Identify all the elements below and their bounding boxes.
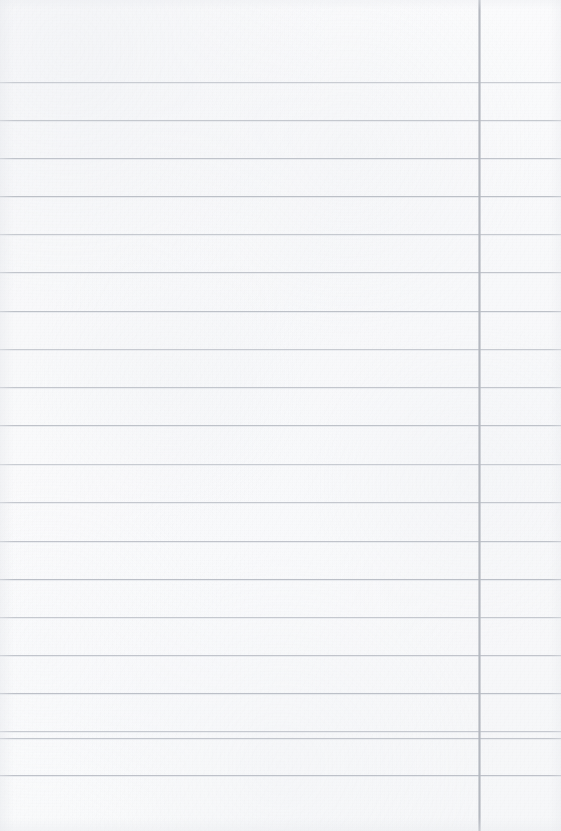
horizontal-rule xyxy=(0,617,561,618)
horizontal-rule xyxy=(0,579,561,580)
horizontal-rule xyxy=(0,464,561,465)
horizontal-rule xyxy=(0,693,561,694)
horizontal-rule xyxy=(0,731,561,732)
horizontal-rule xyxy=(0,311,561,312)
paper-grain-texture xyxy=(0,0,561,831)
horizontal-rule xyxy=(0,541,561,542)
horizontal-rule xyxy=(0,349,561,350)
horizontal-rule xyxy=(0,158,561,159)
horizontal-rule xyxy=(0,502,561,503)
horizontal-rule xyxy=(0,234,561,235)
horizontal-rule xyxy=(0,82,561,83)
horizontal-rule xyxy=(0,387,561,388)
paper-mottling xyxy=(0,0,561,831)
lined-paper-page xyxy=(0,0,561,831)
horizontal-rule xyxy=(0,120,561,121)
horizontal-rule xyxy=(0,655,561,656)
horizontal-rule xyxy=(0,738,561,739)
horizontal-rule xyxy=(0,775,561,776)
horizontal-rule xyxy=(0,272,561,273)
horizontal-rule xyxy=(0,196,561,197)
horizontal-rule xyxy=(0,425,561,426)
scan-edge-vignette xyxy=(0,0,561,831)
vertical-rule xyxy=(478,0,481,831)
